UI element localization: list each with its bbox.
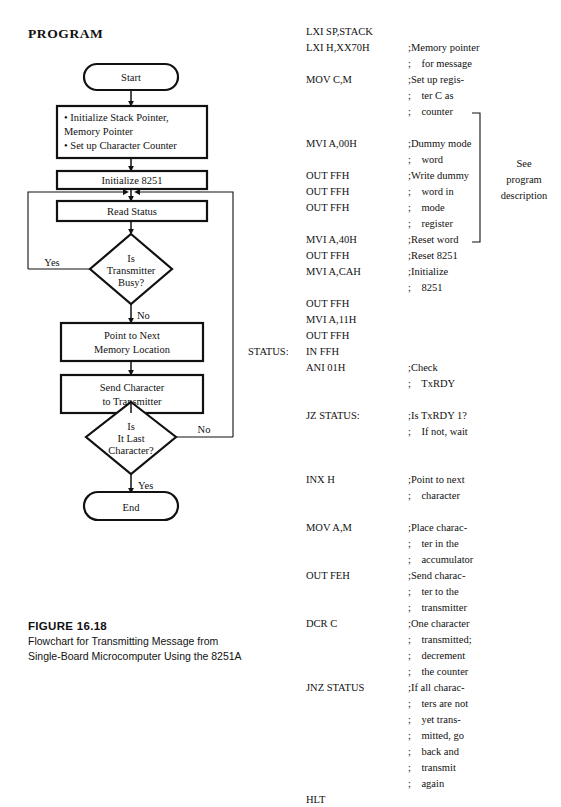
listing-comment: ; 8251 (408, 280, 442, 296)
listing-row: ; for message (248, 56, 548, 72)
listing-row: ; register (248, 216, 548, 232)
listing-mnemonic: LXI H,XX70H (306, 40, 370, 56)
listing-comment: ;Reset 8251 (408, 248, 458, 264)
listing-row: HLT (248, 792, 548, 807)
listing-comment: ; ters are not (408, 696, 468, 712)
listing-row: OUT FFH (248, 328, 548, 344)
figure-number: FIGURE 16.18 (28, 618, 328, 634)
listing-comment: ; again (408, 776, 444, 792)
see-note-line1: See (492, 156, 556, 172)
flow-node-last-character-line3: Character? (108, 445, 154, 456)
listing-mnemonic: JNZ STATUS (306, 680, 364, 696)
listing-row: LXI SP,STACK (248, 24, 548, 40)
listing-comment: ; transmitted; (408, 632, 472, 648)
listing-mnemonic: MOV A,M (306, 520, 352, 536)
listing-comment: ; ter to the (408, 584, 459, 600)
listing-row (248, 440, 548, 456)
listing-row: ; transmit (248, 760, 548, 776)
listing-comment: ; the counter (408, 664, 468, 680)
listing-mnemonic: LXI SP,STACK (306, 24, 373, 40)
listing-row: OUT FEH;Send charac- (248, 568, 548, 584)
listing-row: MVI A,00H;Dummy mode (248, 136, 548, 152)
see-note-line3: description (492, 188, 556, 204)
listing-row: ; TxRDY (248, 376, 548, 392)
listing-row (248, 456, 548, 472)
flow-node-transmitter-busy-line3: Busy? (118, 277, 145, 288)
see-program-description-note: See program description (492, 156, 556, 204)
listing-row: ; yet trans- (248, 712, 548, 728)
listing-comment: ;Send charac- (408, 568, 465, 584)
listing-row: OUT FFH;Reset 8251 (248, 248, 548, 264)
listing-comment: ; yet trans- (408, 712, 461, 728)
listing-row: LXI H,XX70H;Memory pointer (248, 40, 548, 56)
flow-node-start: Start (84, 64, 178, 90)
flow-node-init-line1: • Initialize Stack Pointer, (64, 112, 169, 123)
listing-mnemonic: OUT FFH (306, 200, 349, 216)
listing-row: ; character (248, 488, 548, 504)
listing-row: ; ters are not (248, 696, 548, 712)
listing-comment: ; counter (408, 104, 453, 120)
listing-row: ; ter in the (248, 536, 548, 552)
listing-row: ANI 01H;Check (248, 360, 548, 376)
listing-comment: ;Reset word (408, 232, 458, 248)
listing-mnemonic: ANI 01H (306, 360, 345, 376)
flow-node-last-character-line2: It Last (117, 433, 144, 444)
flow-edge-label-busy-no: No (137, 310, 150, 321)
listing-row: ; back and (248, 744, 548, 760)
listing-row: ; ter C as (248, 88, 548, 104)
listing-mnemonic: OUT FFH (306, 168, 349, 184)
listing-row: JZ STATUS:;Is TxRDY 1? (248, 408, 548, 424)
listing-mnemonic: MOV C,M (306, 72, 352, 88)
listing-row: MOV C,M;Set up regis- (248, 72, 548, 88)
listing-row (248, 120, 548, 136)
flow-node-point-next-line2: Memory Location (94, 344, 171, 355)
flow-node-init-line2: Memory Pointer (64, 126, 134, 137)
flow-edge-label-busy-yes: Yes (44, 257, 59, 268)
flow-node-point-next: Point to Next Memory Location (61, 323, 203, 361)
listing-row: ; ter to the (248, 584, 548, 600)
listing-mnemonic: MVI A,CAH (306, 264, 361, 280)
listing-comment: ; word (408, 152, 443, 168)
listing-mnemonic: OUT FEH (306, 568, 350, 584)
listing-mnemonic: JZ STATUS: (306, 408, 360, 424)
listing-mnemonic: OUT FFH (306, 248, 349, 264)
listing-row: ; 8251 (248, 280, 548, 296)
listing-comment: ;Initialize (408, 264, 448, 280)
see-note-line2: program (492, 172, 556, 188)
listing-row: MVI A,11H (248, 312, 548, 328)
listing-row: JNZ STATUS;If all charac- (248, 680, 548, 696)
listing-row: INX H;Point to next (248, 472, 548, 488)
listing-row (248, 504, 548, 520)
figure-caption-line1: Flowchart for Transmitting Message from (28, 634, 328, 649)
flow-node-send-character-line1: Send Character (100, 382, 165, 393)
listing-row: ; transmitter (248, 600, 548, 616)
figure-caption: FIGURE 16.18 Flowchart for Transmitting … (28, 618, 328, 664)
flow-node-transmitter-busy-line1: Is (127, 253, 135, 264)
flow-node-init-line3: • Set up Character Counter (64, 140, 177, 151)
assembly-listing: LXI SP,STACKLXI H,XX70H;Memory pointer; … (248, 24, 548, 807)
listing-mnemonic: INX H (306, 472, 335, 488)
listing-comment: ;Point to next (408, 472, 465, 488)
flow-node-transmitter-busy: Is Transmitter Busy? (90, 234, 172, 304)
listing-row: ; counter (248, 104, 548, 120)
listing-comment: ; ter in the (408, 536, 459, 552)
listing-comment: ; transmit (408, 760, 456, 776)
listing-row: MVI A,40H;Reset word (248, 232, 548, 248)
listing-comment: ;Dummy mode (408, 136, 471, 152)
listing-comment: ; register (408, 216, 453, 232)
listing-comment: ; TxRDY (408, 376, 455, 392)
listing-label: STATUS: (248, 344, 289, 360)
listing-mnemonic: MVI A,40H (306, 232, 357, 248)
flow-node-point-next-line1: Point to Next (104, 330, 160, 341)
flow-node-read-status-label: Read Status (107, 206, 157, 217)
listing-row: MOV A,M;Place charac- (248, 520, 548, 536)
listing-comment: ; character (408, 488, 460, 504)
listing-comment: ; back and (408, 744, 459, 760)
flow-node-read-status: Read Status (57, 201, 207, 221)
listing-comment: ;Write dummy (408, 168, 469, 184)
listing-mnemonic: OUT FFH (306, 328, 349, 344)
listing-comment: ; mode (408, 200, 445, 216)
listing-mnemonic: MVI A,11H (306, 312, 356, 328)
listing-comment: ; decrement (408, 648, 465, 664)
